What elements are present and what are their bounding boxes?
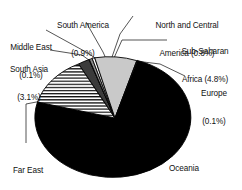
- slice-label-oceania-line1: Oceania: [152, 164, 216, 173]
- slice-label-south-asia-line1: South Asia: [0, 65, 58, 74]
- slice-label-sub-saharan-africa-line1: Sub-Saharan: [168, 47, 242, 56]
- slice-label-oceania: Oceania (71.4%): [152, 145, 216, 190]
- slice-label-far-east-asia-line1: Far East: [0, 166, 56, 175]
- pie-chart-figure: South America (0.9%) North and Central A…: [0, 0, 242, 190]
- slice-label-far-east-asia: Far East Asia (18.8%): [0, 147, 56, 190]
- slice-label-south-asia-line2: (3.1%): [0, 93, 58, 102]
- slice-label-europe-line2: (0.1%): [186, 117, 242, 126]
- slice-label-south-asia: South Asia (3.1%): [0, 46, 58, 121]
- slice-label-europe-line1: Europe: [186, 89, 242, 98]
- slice-label-europe: Europe (0.1%): [186, 70, 242, 145]
